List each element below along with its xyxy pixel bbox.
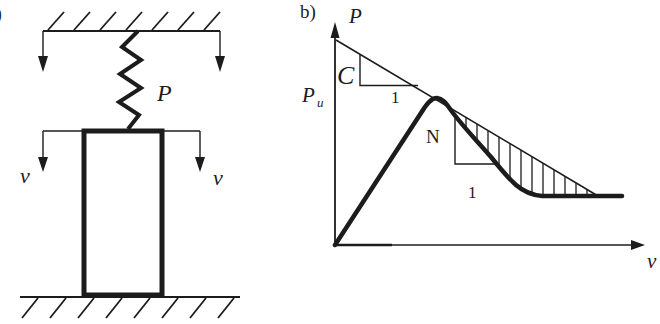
floor-support <box>20 297 240 318</box>
panel-b-load-displacement-graph: b) P v P u C 1 <box>300 0 660 324</box>
floor-hatching <box>22 298 234 318</box>
panel-a-label: a) <box>0 3 2 25</box>
right-displacement-label: v <box>213 165 223 190</box>
right-v-arrow-icon <box>195 157 205 172</box>
textbook-figure: a) P <box>0 0 660 324</box>
peak-load-label: P <box>301 83 315 107</box>
left-down-arrow-icon <box>38 56 48 72</box>
spring-load-label: P <box>156 80 172 106</box>
x-axis-label: v <box>647 249 657 273</box>
x-axis-arrow-icon <box>631 240 645 250</box>
panel-b-label: b) <box>300 1 316 23</box>
specimen-rectangle <box>84 131 162 295</box>
left-displacement-label: v <box>20 163 30 188</box>
panel-a-specimen-diagram: a) P <box>0 0 300 324</box>
right-down-arrow-icon <box>215 56 225 72</box>
peak-load-label-group: P u <box>301 83 324 110</box>
left-v-arrow-icon <box>38 157 48 172</box>
peak-load-subscript: u <box>317 95 324 110</box>
y-axis-arrow-icon <box>331 22 340 38</box>
c-triangle-run-label: 1 <box>391 88 400 107</box>
machine-stiffness-line <box>336 40 598 196</box>
softening-slope-label: N <box>426 126 440 147</box>
ceiling-support <box>43 12 220 31</box>
machine-stiffness-triangle: C 1 <box>337 54 418 107</box>
spring-zigzag <box>119 31 141 129</box>
machine-stiffness-label: C <box>337 61 355 90</box>
ceiling-hatching <box>48 12 220 30</box>
load-displacement-curve <box>335 98 622 245</box>
axes: P v <box>331 4 658 273</box>
y-axis-label: P <box>348 4 362 28</box>
n-triangle-run-label: 1 <box>468 183 477 202</box>
